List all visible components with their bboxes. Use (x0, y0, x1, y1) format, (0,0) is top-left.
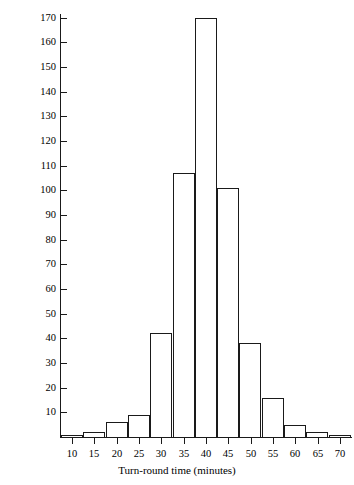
x-axis-tick (117, 438, 118, 444)
x-axis-tick-label: 70 (325, 448, 354, 459)
x-axis-tick (295, 438, 296, 444)
histogram-bar (150, 333, 172, 437)
y-axis-tick (61, 338, 67, 339)
histogram-bar (239, 343, 261, 437)
histogram-bar (329, 435, 351, 437)
y-axis-tick (61, 363, 67, 364)
y-axis-tick (61, 141, 67, 142)
y-axis-tick-label: 110 (16, 161, 56, 171)
y-axis-tick (61, 240, 67, 241)
histogram-bar (128, 415, 150, 437)
histogram-bar (195, 18, 217, 437)
y-axis-tick (61, 67, 67, 68)
y-axis-tick (61, 18, 67, 19)
histogram-bar (306, 432, 328, 437)
y-axis-tick (61, 190, 67, 191)
histogram-bar (262, 398, 284, 437)
y-axis-tick (61, 166, 67, 167)
y-axis-line (60, 14, 61, 438)
x-axis-tick (161, 438, 162, 444)
y-axis-tick (61, 412, 67, 413)
y-axis-tick (61, 215, 67, 216)
x-axis-tick (206, 438, 207, 444)
histogram-bar (284, 425, 306, 437)
y-axis-tick-label: 130 (16, 111, 56, 121)
histogram-bar (217, 188, 239, 437)
y-axis-tick (61, 388, 67, 389)
histogram-figure: 1020304050607080901001101201301401501601… (0, 0, 354, 485)
x-axis-tick (72, 438, 73, 444)
x-axis-tick (318, 438, 319, 444)
y-axis-tick-label: 50 (16, 309, 56, 319)
x-axis-tick (228, 438, 229, 444)
y-axis-tick-label: 60 (16, 284, 56, 294)
histogram-bar (173, 173, 195, 437)
y-axis-tick-label: 30 (16, 358, 56, 368)
histogram-bar (61, 435, 83, 437)
y-axis-tick-label: 150 (16, 62, 56, 72)
histogram-bar (83, 432, 105, 437)
x-axis-tick (340, 438, 341, 444)
y-axis-tick (61, 264, 67, 265)
x-axis-title: Turn-round time (minutes) (0, 464, 354, 477)
y-axis-tick-label: 10 (16, 407, 56, 417)
y-axis-tick-label: 70 (16, 259, 56, 269)
y-axis-tick-label: 100 (16, 185, 56, 195)
y-axis-tick-label: 40 (16, 333, 56, 343)
y-axis-tick-label: 80 (16, 235, 56, 245)
x-axis-tick (139, 438, 140, 444)
histogram-bar (106, 422, 128, 437)
x-axis-tick (251, 438, 252, 444)
y-axis-tick-label: 120 (16, 136, 56, 146)
y-axis-tick (61, 116, 67, 117)
x-axis-tick (94, 438, 95, 444)
y-axis-tick-label: 170 (16, 13, 56, 23)
y-axis-tick (61, 42, 67, 43)
y-axis-tick-label: 160 (16, 37, 56, 47)
x-axis-tick (184, 438, 185, 444)
y-axis-tick-label: 90 (16, 210, 56, 220)
y-axis-tick (61, 314, 67, 315)
y-axis-tick (61, 92, 67, 93)
x-axis-tick (273, 438, 274, 444)
y-axis-tick-label: 140 (16, 87, 56, 97)
y-axis-tick (61, 289, 67, 290)
y-axis-tick-label: 20 (16, 383, 56, 393)
